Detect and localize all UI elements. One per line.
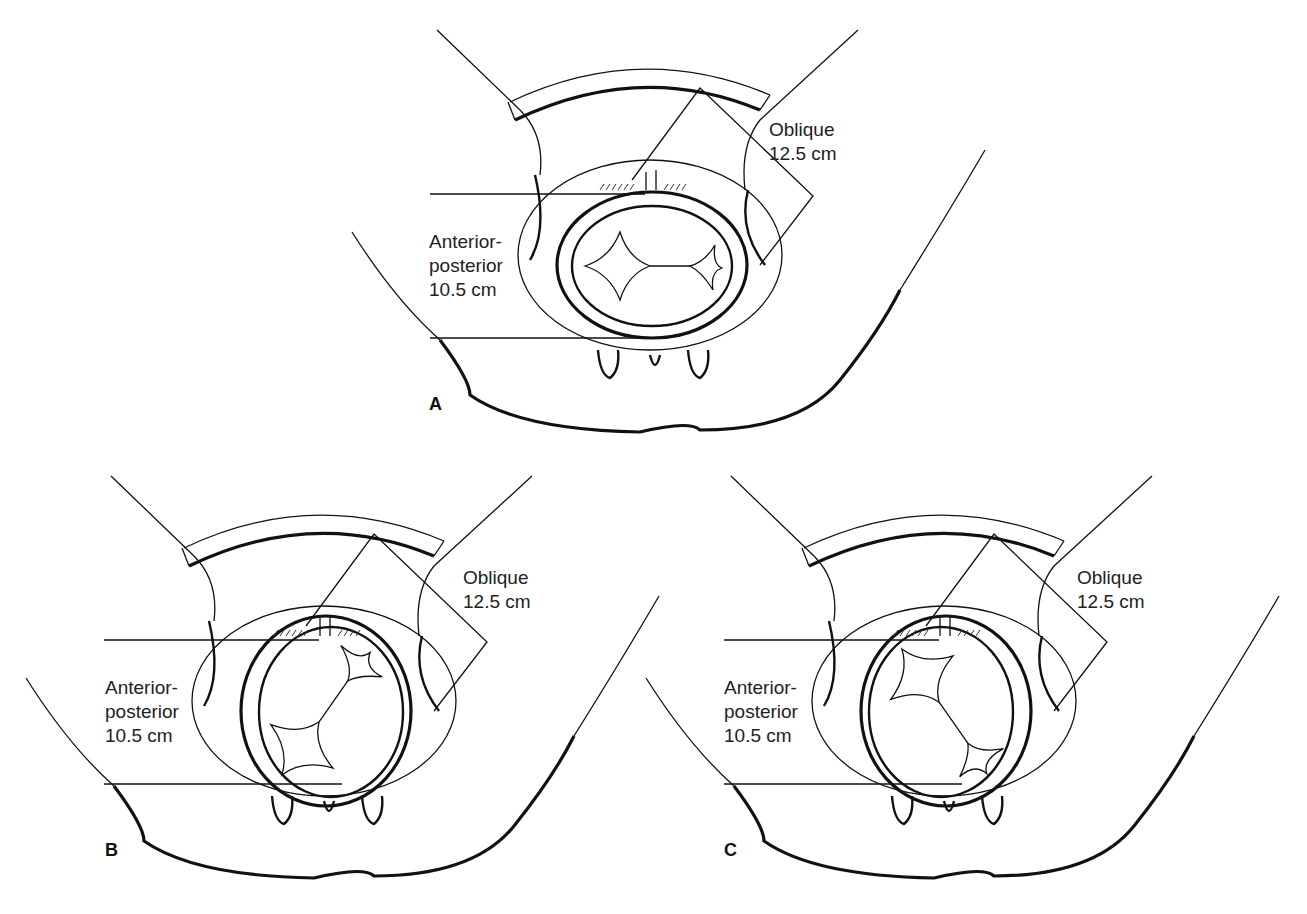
oblique-value: 12.5 cm: [1077, 590, 1145, 614]
panel-label-c: C: [724, 840, 737, 861]
panel-c: Oblique 12.5 cm Anterior- posterior 10.5…: [0, 0, 1307, 914]
oblique-label-c: Oblique 12.5 cm: [1077, 566, 1145, 614]
pelvic-illustration-c: [0, 0, 1307, 914]
ap-value: 10.5 cm: [724, 724, 798, 748]
ap-text-2: posterior: [724, 700, 798, 724]
ap-text-1: Anterior-: [724, 676, 798, 700]
oblique-text: Oblique: [1077, 566, 1145, 590]
ap-label-c: Anterior- posterior 10.5 cm: [724, 676, 798, 748]
fetal-head-sutures: [871, 627, 1020, 794]
